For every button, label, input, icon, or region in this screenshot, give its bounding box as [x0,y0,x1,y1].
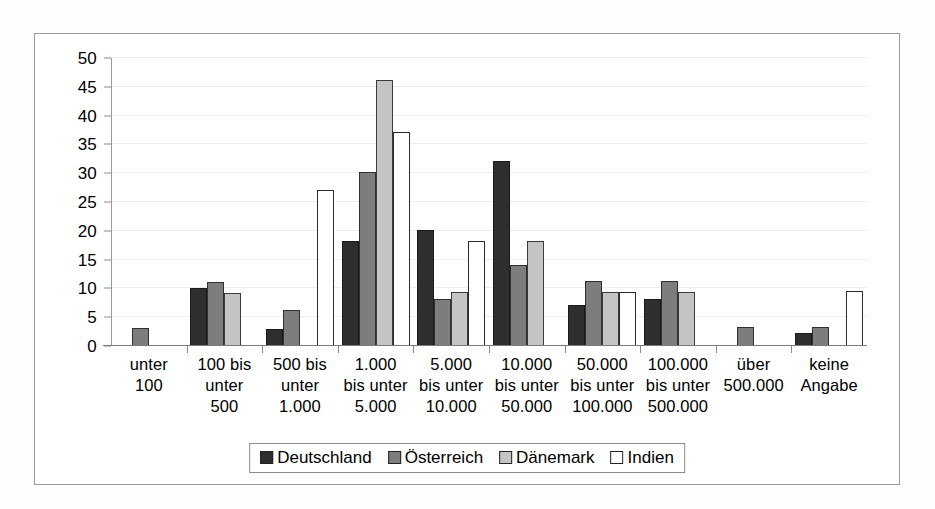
bar-indien [619,292,636,346]
x-axis-tickmark [413,346,414,353]
x-axis-label: 100 bis unter 500 [187,354,263,417]
legend-label: Österreich [405,448,483,467]
chart-frame: 05101520253035404550 unter 100100 bis un… [34,33,900,485]
legend-swatch-icon [260,451,273,464]
x-axis-label: 5.000 bis unter 10.000 [413,354,489,417]
bar-österreich [510,265,527,346]
bar-deutschland [266,329,283,346]
y-axis-tickmark [104,230,111,231]
x-axis-tickmark [791,346,792,353]
bar-group [640,58,716,346]
legend-label: Deutschland [277,448,372,467]
y-axis-tickmark [104,288,111,289]
bar-dänemark [224,293,241,346]
plot-inner: 05101520253035404550 [111,58,867,346]
x-axis-label: unter 100 [111,354,187,417]
x-axis-tickmark [338,346,339,353]
x-axis-label: über 500.000 [716,354,792,417]
bar-group [791,58,867,346]
y-axis-tickmark [104,173,111,174]
bar-dänemark [451,292,468,346]
bar-group [716,58,792,346]
x-axis-tickmark [489,346,490,353]
legend-label: Indien [628,448,674,467]
x-axis-tickmark [262,346,263,353]
x-axis-label: 1.000 bis unter 5.000 [338,354,414,417]
x-axis-tickmark [565,346,566,353]
bar-deutschland [190,288,207,346]
y-axis-tickmark [104,58,111,59]
bar-indien [468,241,485,346]
bar-group [565,58,641,346]
bar-group [489,58,565,346]
y-axis-tickmark [104,115,111,116]
bar-dänemark [376,80,393,346]
bar-indien [317,190,334,346]
bar-deutschland [417,230,434,346]
bar-österreich [132,328,149,346]
y-axis-tickmark [104,202,111,203]
legend-item: Dänemark [499,448,594,467]
legend-item: Deutschland [260,448,372,467]
legend-item: Indien [611,448,674,467]
bar-österreich [283,310,300,346]
bar-groups [111,58,867,346]
bar-deutschland [493,161,510,346]
x-axis-label: 10.000 bis unter 50.000 [489,354,565,417]
y-axis-tickmark [104,86,111,87]
bar-group [413,58,489,346]
bar-indien [393,132,410,346]
x-axis-tickmark [187,346,188,353]
x-axis-tickmark [716,346,717,353]
legend-swatch-icon [611,451,624,464]
x-axis-label: keine Angabe [791,354,867,417]
x-axis-label: 100.000 bis unter 500.000 [640,354,716,417]
chart-page: 05101520253035404550 unter 100100 bis un… [0,0,935,509]
x-axis-line [103,345,867,346]
legend-swatch-icon [499,451,512,464]
legend-swatch-icon [388,451,401,464]
bar-group [338,58,414,346]
y-axis-tickmark [104,144,111,145]
x-axis-labels: unter 100100 bis unter 500500 bis unter … [111,354,867,417]
bar-österreich [661,281,678,346]
plot-area: 05101520253035404550 [111,58,867,346]
bar-deutschland [568,305,585,346]
legend-label: Dänemark [516,448,594,467]
bar-österreich [359,172,376,346]
bar-group [262,58,338,346]
x-axis-tickmark [640,346,641,353]
bar-österreich [812,327,829,346]
bar-group [111,58,187,346]
bar-group [187,58,263,346]
bar-österreich [737,327,754,346]
legend-item: Österreich [388,448,483,467]
bar-dänemark [678,292,695,346]
bar-deutschland [644,299,661,346]
x-axis-label: 500 bis unter 1.000 [262,354,338,417]
y-axis-tickmark [104,317,111,318]
bar-österreich [207,282,224,347]
bar-indien [846,291,863,346]
x-axis-label: 50.000 bis unter 100.000 [565,354,641,417]
chart-legend: DeutschlandÖsterreichDänemarkIndien [249,443,685,473]
bar-dänemark [602,292,619,346]
bar-dänemark [527,241,544,346]
bar-österreich [585,281,602,346]
bar-deutschland [342,241,359,346]
y-axis-tickmark [104,259,111,260]
bar-österreich [434,299,451,346]
